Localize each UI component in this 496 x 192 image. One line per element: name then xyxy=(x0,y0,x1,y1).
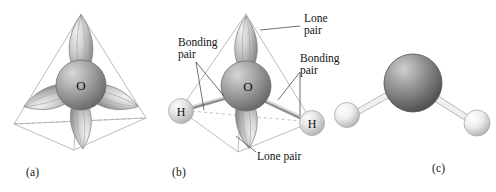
panel-c-graphic xyxy=(330,0,496,192)
label-lone-pair-bottom-line1: Lone pair xyxy=(257,150,301,162)
panel-a-tetrahedral-orbitals: O xyxy=(0,0,165,192)
label-lone-pair-top-line1: Lone xyxy=(304,12,328,24)
hydrogen-label-right-b: H xyxy=(308,117,317,131)
hydrogen-sphere-right-c xyxy=(464,110,490,136)
oxygen-label-a: O xyxy=(76,78,85,93)
hydrogen-sphere-left-c xyxy=(335,103,360,128)
hydrogen-label-left-b: H xyxy=(177,105,186,119)
panel-c-ball-and-stick xyxy=(330,0,496,192)
label-bonding-pair-right: Bonding pair xyxy=(300,52,340,77)
label-lone-pair-top: Lone pair xyxy=(304,12,328,37)
oxygen-label-b: O xyxy=(243,79,252,94)
oxygen-sphere-c xyxy=(384,54,442,112)
label-bonding-pair-right-line1: Bonding xyxy=(300,52,340,64)
label-lone-pair-top-line2: pair xyxy=(304,24,328,36)
label-bonding-pair-left-line2: pair xyxy=(178,48,218,60)
water-orbital-figure: O xyxy=(0,0,496,192)
panel-caption-a: (a) xyxy=(26,166,39,178)
panel-caption-c: (c) xyxy=(432,162,445,174)
label-bonding-pair-left: Bonding pair xyxy=(178,36,218,61)
label-bonding-pair-left-line1: Bonding xyxy=(178,36,218,48)
label-lone-pair-bottom: Lone pair xyxy=(257,150,301,162)
label-bonding-pair-right-line2: pair xyxy=(300,64,340,76)
panel-caption-b: (b) xyxy=(172,166,186,178)
panel-a-graphic: O xyxy=(0,0,165,192)
